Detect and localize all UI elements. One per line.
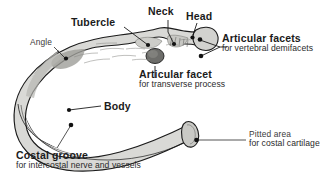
label-articular-facet-sub: for transverse process (139, 80, 225, 89)
pitted-area-dot (194, 138, 199, 143)
label-tubercle: Tubercle (71, 17, 115, 28)
label-pitted-area: Pitted area for costal cartilage (249, 130, 320, 148)
rib-anatomy-figure: Tubercle Neck Head Angle Body Articular … (0, 0, 321, 183)
articular-facet-lower-dot (199, 54, 204, 59)
head-dot (190, 35, 194, 39)
label-angle: Angle (30, 38, 52, 47)
label-articular-facets-sub: for vertebral demifacets (222, 44, 313, 53)
label-pitted-area-sub: for costal cartilage (249, 139, 320, 148)
label-head: Head (186, 11, 212, 22)
articular-facet-upper-dot (198, 37, 203, 42)
label-body-main: Body (104, 101, 131, 112)
costal-groove-dot (69, 123, 74, 128)
leader-costal-groove (57, 125, 71, 148)
angle-dot (64, 56, 68, 60)
label-tubercle-main: Tubercle (71, 17, 115, 28)
label-head-main: Head (186, 11, 212, 22)
body-dot (67, 108, 71, 112)
label-articular-facets: Articular facets for vertebral demifacet… (222, 33, 313, 54)
label-costal-groove: Costal groove for intercostal nerve and … (16, 150, 141, 171)
label-costal-groove-sub: for intercostal nerve and vessels (16, 161, 141, 170)
leader-body (69, 106, 101, 110)
label-angle-main: Angle (30, 38, 52, 47)
label-articular-facet: Articular facet for transverse process (139, 69, 225, 90)
label-neck-main: Neck (148, 6, 174, 17)
neck-dot (172, 42, 176, 46)
articular-facet-highlight (148, 50, 158, 58)
label-body: Body (104, 101, 131, 112)
tubercle-dot (146, 43, 150, 47)
rib-head (193, 27, 218, 50)
label-neck: Neck (148, 6, 174, 17)
